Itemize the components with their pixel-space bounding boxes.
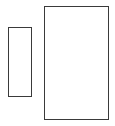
large-rectangle <box>44 6 109 120</box>
small-rectangle <box>8 27 32 97</box>
